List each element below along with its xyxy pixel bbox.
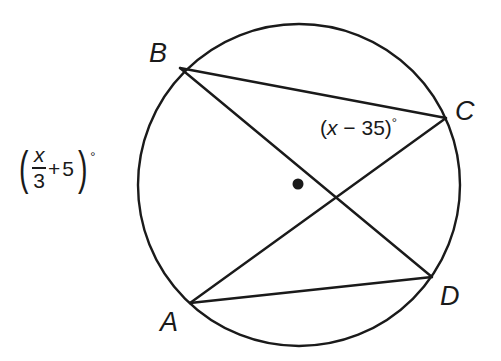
angle-left-degree-symbol: °: [90, 150, 95, 163]
angle-c-variable: x: [327, 116, 338, 139]
geometry-figure: B C D A (x − 35)° ( x 3 +5)°: [0, 0, 501, 361]
vertex-label-b: B: [149, 40, 167, 67]
angle-left-denominator: 3: [31, 169, 47, 192]
angle-left-close-paren: ): [78, 147, 88, 189]
vertex-label-c: C: [455, 98, 475, 125]
center-dot: [293, 179, 304, 190]
angle-c-degree-symbol: °: [392, 115, 397, 130]
angle-c-operator: −: [343, 116, 355, 139]
angle-left-number: 5: [61, 158, 75, 179]
angle-c-number: 35: [361, 116, 384, 139]
chord-ad: [190, 277, 432, 303]
chord-bd: [180, 68, 432, 277]
chord-bc: [180, 68, 446, 118]
chord-ac: [190, 118, 446, 303]
angle-c-open-paren: (: [320, 116, 327, 139]
angle-left-numerator: x: [31, 144, 47, 167]
angle-left-open-paren: (: [19, 147, 29, 189]
vertex-label-d: D: [440, 283, 460, 310]
angle-c-close-paren: ): [385, 116, 392, 139]
angle-left-fraction: x 3: [31, 144, 47, 192]
angle-left-operator: +: [47, 158, 61, 179]
angle-label-left: ( x 3 +5)°: [16, 145, 96, 193]
vertex-label-a: A: [160, 309, 178, 336]
angle-label-at-c: (x − 35)°: [320, 116, 397, 138]
